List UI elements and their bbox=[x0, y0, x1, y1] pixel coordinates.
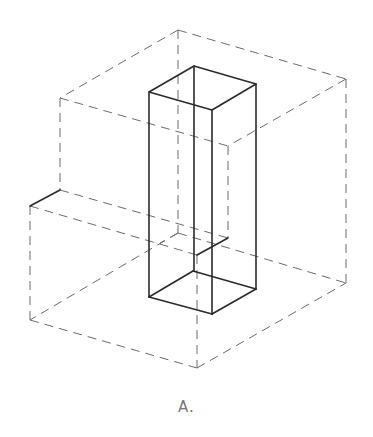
figure-caption: A. bbox=[0, 398, 373, 416]
solid-edges bbox=[30, 190, 228, 255]
dashed-outer-box bbox=[30, 30, 346, 368]
isometric-diagram bbox=[0, 0, 373, 437]
solid-prism bbox=[149, 66, 256, 314]
